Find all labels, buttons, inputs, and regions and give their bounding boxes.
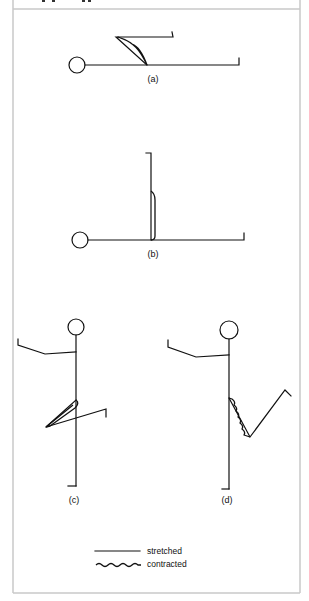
raised-leg <box>146 153 151 240</box>
body-and-leg <box>88 233 244 240</box>
panel-caption: (c) <box>69 495 80 505</box>
panel-a: (a) <box>69 32 239 84</box>
legend-contracted-swatch <box>96 564 141 567</box>
legend: stretched contracted <box>95 546 187 569</box>
arm <box>18 339 76 354</box>
legend-contracted-label: contracted <box>147 559 187 569</box>
head <box>68 319 84 335</box>
figure-frame <box>13 0 300 593</box>
panel-d: (d) <box>168 321 291 505</box>
panel-caption: (a) <box>148 74 159 84</box>
head <box>72 232 88 248</box>
panel-caption: (d) <box>222 495 233 505</box>
head <box>220 321 238 339</box>
body-and-leg <box>85 58 239 65</box>
panel-c: (c) <box>18 319 106 505</box>
panel-caption: (b) <box>148 249 159 259</box>
cut-off-header-text <box>42 0 91 2</box>
muscle-diagram: (a) (b) (c) (d) stretched contracted <box>0 0 309 601</box>
head <box>69 57 85 73</box>
muscle-stretched <box>46 400 78 427</box>
arm <box>168 340 229 357</box>
panel-b: (b) <box>72 153 244 259</box>
legend-stretched-label: stretched <box>147 546 182 556</box>
